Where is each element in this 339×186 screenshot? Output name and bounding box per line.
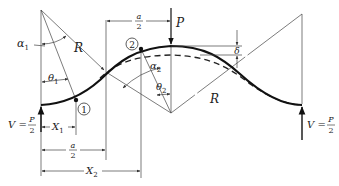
point2-label: 2 <box>129 40 135 50</box>
R-left-label: R <box>73 41 83 55</box>
diagram-svg: 1 2 α1 R θ1 α2 θ2 R a 2 P δ V = P 2 V = … <box>0 0 339 186</box>
right-reaction-num: P <box>327 115 334 124</box>
left-reaction-label: V = <box>8 119 27 130</box>
R-right-label: R <box>209 92 219 106</box>
a-half-top-denominator: 2 <box>136 22 141 31</box>
point1-label: 1 <box>81 105 87 115</box>
a-half-bottom-numerator: a <box>71 141 76 150</box>
beam-deflection-diagram: 1 2 α1 R θ1 α2 θ2 R a 2 P δ V = P 2 V = … <box>0 0 339 186</box>
theta2-label: θ2 <box>156 81 167 95</box>
left-reaction-num: P <box>28 115 35 124</box>
left-radius-to-inflection <box>41 10 104 70</box>
theta1-label: θ1 <box>48 72 59 86</box>
load-P-label: P <box>175 16 185 30</box>
left-radius-to-point1 <box>41 10 76 100</box>
alpha1-label: α1 <box>17 37 29 52</box>
a-half-bottom-denominator: 2 <box>70 151 75 160</box>
point1-dot <box>74 98 78 102</box>
right-radius-line <box>171 14 302 113</box>
right-reaction-label: V = <box>307 119 326 130</box>
left-reaction-den: 2 <box>29 126 34 135</box>
a-half-top-numerator: a <box>137 12 142 21</box>
delta-label: δ <box>234 46 239 56</box>
alpha1-leader <box>34 45 45 46</box>
point2-dot <box>139 47 143 51</box>
right-reaction-den: 2 <box>328 126 333 135</box>
